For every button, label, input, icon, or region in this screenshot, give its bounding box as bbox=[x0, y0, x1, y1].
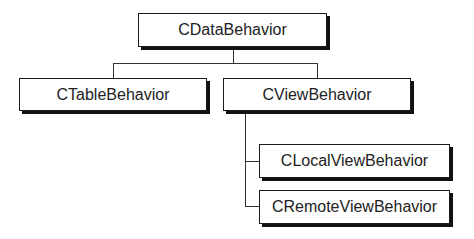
node-ctablebehavior: CTableBehavior bbox=[19, 78, 207, 111]
connector-to-cremoteviewbehavior bbox=[245, 206, 259, 207]
node-cviewbehavior: CViewBehavior bbox=[223, 78, 411, 111]
connector-to-ctablebehavior bbox=[113, 63, 114, 78]
node-cdatabehavior: CDataBehavior bbox=[138, 13, 327, 47]
connector-cview-stem bbox=[245, 111, 246, 207]
connector-root-stem bbox=[233, 47, 234, 63]
class-hierarchy-diagram: CDataBehavior CTableBehavior CViewBehavi… bbox=[0, 0, 474, 239]
node-label: CDataBehavior bbox=[178, 21, 287, 39]
connector-to-clocalviewbehavior bbox=[245, 161, 259, 162]
node-label: CLocalViewBehavior bbox=[281, 152, 428, 170]
node-label: CViewBehavior bbox=[262, 86, 371, 104]
node-clocalviewbehavior: CLocalViewBehavior bbox=[259, 144, 450, 178]
connector-root-bar bbox=[113, 63, 318, 64]
connector-to-cviewbehavior bbox=[317, 63, 318, 78]
node-cremoteviewbehavior: CRemoteViewBehavior bbox=[259, 190, 450, 224]
node-label: CTableBehavior bbox=[57, 86, 170, 104]
node-label: CRemoteViewBehavior bbox=[272, 198, 437, 216]
